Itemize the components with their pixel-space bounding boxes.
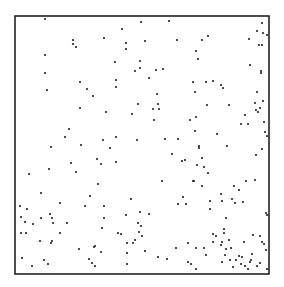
data-point [226,145,228,147]
data-point [255,109,257,111]
data-point [51,240,53,242]
data-point [75,46,77,48]
data-point [50,146,52,148]
data-point [78,248,80,250]
data-point [125,48,127,50]
data-point [249,64,251,66]
data-point [258,44,260,46]
data-point [196,164,198,166]
data-point [228,239,230,241]
data-point [155,69,157,71]
data-point [59,232,61,234]
data-point [261,22,263,24]
data-point [220,193,222,195]
data-point [121,28,123,30]
data-point [234,202,236,204]
data-point [209,208,211,210]
data-point [265,249,267,251]
data-point [259,235,261,237]
data-point [103,205,105,207]
data-point [97,183,99,185]
data-point [115,86,117,88]
data-point [49,213,51,215]
data-point [105,111,107,113]
data-point [244,114,246,116]
data-point [223,228,225,230]
data-point [195,116,197,118]
data-point [187,261,189,263]
data-point [244,265,246,267]
data-point [50,242,52,244]
data-point [19,205,21,207]
data-point [75,171,77,173]
data-point [175,247,177,249]
data-point [176,39,178,41]
data-point [103,37,105,39]
data-point [201,39,203,41]
data-point [260,70,262,72]
data-point [168,20,170,22]
data-point [144,40,146,42]
data-point [51,217,53,219]
data-point [101,227,103,229]
data-point [79,107,81,109]
data-point [164,138,166,140]
data-point [47,263,49,265]
data-point [198,147,200,149]
data-point [117,232,119,234]
data-point [125,214,127,216]
data-point [158,108,160,110]
data-point [138,231,140,233]
data-point [59,202,61,204]
data-point [162,68,164,70]
data-point [177,203,179,205]
data-point [212,233,214,235]
data-point [181,160,183,162]
data-point [126,263,128,265]
data-point [262,100,264,102]
data-point [89,195,91,197]
data-point [126,242,128,244]
data-point [207,172,209,174]
data-point [40,192,42,194]
data-point [259,107,261,109]
data-point [252,234,254,236]
data-point [259,262,261,264]
data-point [240,263,242,265]
data-point [152,108,154,110]
data-point [134,239,136,241]
data-point [225,248,227,250]
data-point [92,95,94,97]
data-point [198,145,200,147]
data-point [171,153,173,155]
data-point [197,58,199,60]
data-point [182,196,184,198]
data-point [230,247,232,249]
data-point [238,189,240,191]
scatter-plot [0,0,284,287]
data-point [100,163,102,165]
data-point [195,247,197,249]
data-point [115,136,117,138]
data-point [91,262,93,264]
data-point [195,268,197,270]
data-point [140,21,142,23]
data-point [261,44,263,46]
data-point [185,203,187,205]
data-point [266,214,268,216]
data-point [28,173,30,175]
data-point [242,201,244,203]
data-point [140,225,142,227]
data-point [254,179,256,181]
data-point [263,243,265,245]
data-point [247,268,249,270]
data-point [120,233,122,235]
data-point [231,198,233,200]
data-point [240,123,242,125]
data-point [256,91,258,93]
data-point [79,81,81,83]
data-point [136,139,138,141]
data-point [225,217,227,219]
data-point [72,43,74,45]
data-point [44,72,46,74]
